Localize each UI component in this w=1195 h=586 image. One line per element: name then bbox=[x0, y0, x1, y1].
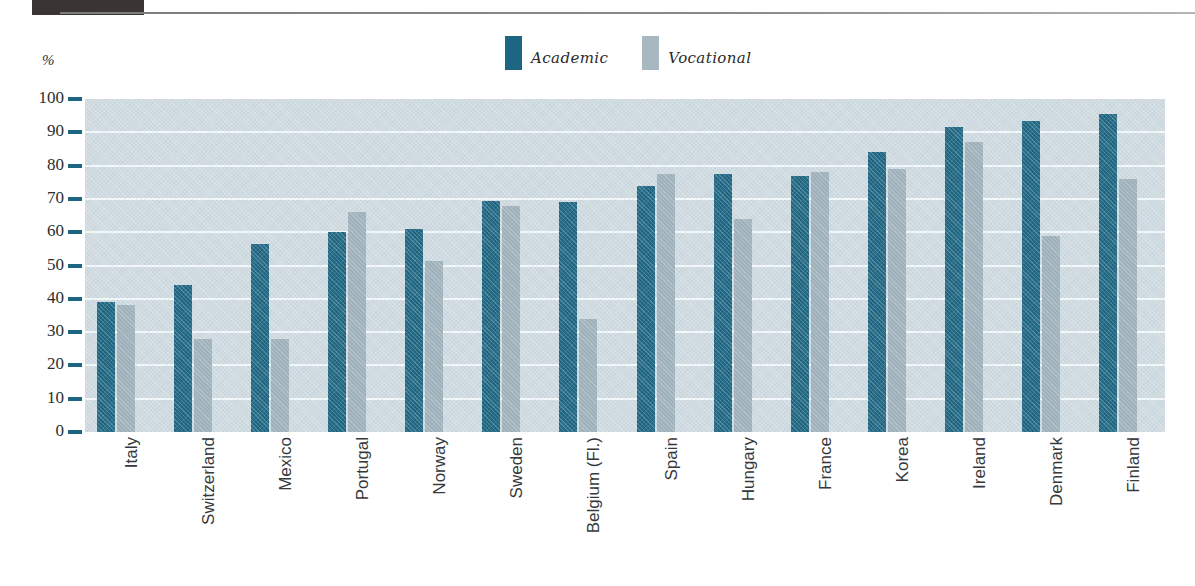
bar-finland-academic bbox=[1099, 114, 1117, 432]
bar-denmark-vocational bbox=[1042, 236, 1060, 432]
y-tick-mark bbox=[68, 197, 82, 201]
y-tick-label: 50 bbox=[20, 255, 64, 275]
x-tick-label: Spain bbox=[662, 437, 682, 480]
x-axis-labels: ItalySwitzerlandMexicoPortugalNorwaySwed… bbox=[85, 437, 1165, 582]
bar-finland-vocational bbox=[1119, 179, 1137, 432]
y-tick-label: 100 bbox=[20, 88, 64, 108]
bar-korea-vocational bbox=[888, 169, 906, 432]
bar-hungary-academic bbox=[714, 174, 732, 432]
bar-france-academic bbox=[791, 176, 809, 432]
bar-portugal-vocational bbox=[348, 212, 366, 432]
y-tick-label: 60 bbox=[20, 221, 64, 241]
gridline bbox=[85, 265, 1165, 267]
gridline bbox=[85, 398, 1165, 400]
bar-spain-academic bbox=[637, 186, 655, 432]
y-tick-label: 30 bbox=[20, 321, 64, 341]
bar-belgium-fl-vocational bbox=[579, 319, 597, 432]
bar-portugal-academic bbox=[328, 232, 346, 432]
bar-italy-academic bbox=[97, 302, 115, 432]
x-tick-label: Mexico bbox=[276, 437, 296, 491]
bar-mexico-vocational bbox=[271, 339, 289, 432]
bar-italy-vocational bbox=[117, 305, 135, 432]
bar-sweden-academic bbox=[482, 201, 500, 432]
x-tick-label: Belgium (Fl.) bbox=[584, 437, 604, 533]
x-tick-label: Hungary bbox=[739, 437, 759, 501]
y-tick-mark bbox=[68, 297, 82, 301]
bar-switzerland-academic bbox=[174, 285, 192, 432]
y-tick-mark bbox=[68, 130, 82, 134]
bar-switzerland-vocational bbox=[194, 339, 212, 432]
bar-denmark-academic bbox=[1022, 121, 1040, 432]
x-tick-label: France bbox=[816, 437, 836, 490]
x-tick-label: Norway bbox=[430, 437, 450, 495]
bar-belgium-fl-academic bbox=[559, 202, 577, 432]
y-tick-mark bbox=[68, 230, 82, 234]
y-tick-mark bbox=[68, 363, 82, 367]
y-tick-label: 10 bbox=[20, 388, 64, 408]
bar-ireland-academic bbox=[945, 127, 963, 432]
y-tick-mark bbox=[68, 97, 82, 101]
bar-chart: 1009080706050403020100 ItalySwitzerlandM… bbox=[0, 0, 1195, 586]
x-tick-label: Korea bbox=[893, 437, 913, 482]
plot-area bbox=[85, 99, 1165, 432]
bar-spain-vocational bbox=[657, 174, 675, 432]
y-tick-mark bbox=[68, 397, 82, 401]
y-tick-mark bbox=[68, 430, 82, 434]
y-tick-mark bbox=[68, 164, 82, 168]
bar-hungary-vocational bbox=[734, 219, 752, 432]
bar-france-vocational bbox=[811, 172, 829, 432]
y-tick-mark bbox=[68, 330, 82, 334]
y-tick-label: 70 bbox=[20, 188, 64, 208]
bar-mexico-academic bbox=[251, 244, 269, 432]
gridline bbox=[85, 131, 1165, 133]
x-tick-label: Finland bbox=[1124, 437, 1144, 493]
gridline bbox=[85, 364, 1165, 366]
bar-korea-academic bbox=[868, 152, 886, 432]
gridline bbox=[85, 298, 1165, 300]
x-tick-label: Portugal bbox=[353, 437, 373, 500]
gridline bbox=[85, 165, 1165, 167]
y-tick-label: 80 bbox=[20, 155, 64, 175]
y-tick-mark bbox=[68, 264, 82, 268]
x-tick-label: Sweden bbox=[507, 437, 527, 498]
gridline bbox=[85, 231, 1165, 233]
bar-norway-academic bbox=[405, 229, 423, 432]
gridline bbox=[85, 331, 1165, 333]
bar-sweden-vocational bbox=[502, 206, 520, 432]
y-tick-label: 0 bbox=[20, 421, 64, 441]
x-tick-label: Switzerland bbox=[199, 437, 219, 525]
y-tick-label: 20 bbox=[20, 354, 64, 374]
y-tick-label: 90 bbox=[20, 121, 64, 141]
bar-norway-vocational bbox=[425, 261, 443, 432]
y-tick-label: 40 bbox=[20, 288, 64, 308]
gridline bbox=[85, 198, 1165, 200]
bar-ireland-vocational bbox=[965, 142, 983, 432]
x-tick-label: Denmark bbox=[1047, 437, 1067, 506]
x-tick-label: Italy bbox=[122, 437, 142, 468]
x-tick-label: Ireland bbox=[970, 437, 990, 489]
